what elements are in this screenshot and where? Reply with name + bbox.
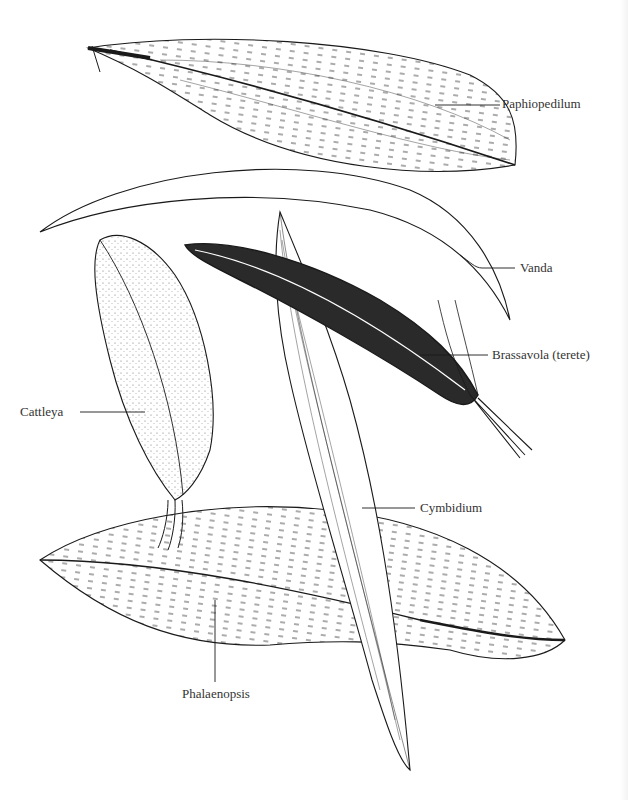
label-brassavola: Brassavola (terete) [492,347,590,363]
cattleya-leaf [95,235,213,550]
phalaenopsis-leaf [40,507,565,659]
label-cymbidium: Cymbidium [420,500,482,516]
leader-vanda [460,255,515,268]
label-vanda: Vanda [520,260,553,276]
brassavola-leaf [185,244,532,458]
label-paphiopedilum: Paphiopedilum [502,96,581,112]
orchid-leaves-illustration [0,0,628,800]
label-cattleya: Cattleya [20,404,63,420]
label-phalaenopsis: Phalaenopsis [182,686,250,702]
